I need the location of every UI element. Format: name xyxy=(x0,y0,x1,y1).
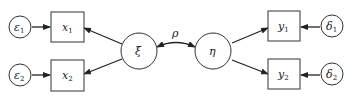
node-epsilon-1: ε1 xyxy=(9,16,31,38)
node-eta: η xyxy=(195,33,231,69)
svg-text:ξ: ξ xyxy=(135,45,142,58)
sem-diagram: ε1 ε2 x1 x2 ξ ρ η y1 y2 δ1 δ2 xyxy=(0,0,353,96)
edge-eta-y2 xyxy=(232,60,268,74)
edge-xi-x1 xyxy=(84,28,122,44)
node-delta-2: δ2 xyxy=(321,63,343,85)
node-x1: x1 xyxy=(51,12,84,42)
node-y1: y1 xyxy=(268,11,300,41)
node-x2: x2 xyxy=(51,60,84,91)
node-y2: y2 xyxy=(268,59,300,89)
edge-eta-y1 xyxy=(232,28,268,43)
rho-label: ρ xyxy=(171,27,179,40)
svg-text:η: η xyxy=(209,45,216,58)
edge-xi-eta-correlation xyxy=(157,43,195,48)
node-epsilon-2: ε2 xyxy=(9,64,31,86)
edge-xi-x2 xyxy=(84,59,122,74)
node-delta-1: δ1 xyxy=(321,15,343,37)
node-xi: ξ xyxy=(121,33,157,69)
